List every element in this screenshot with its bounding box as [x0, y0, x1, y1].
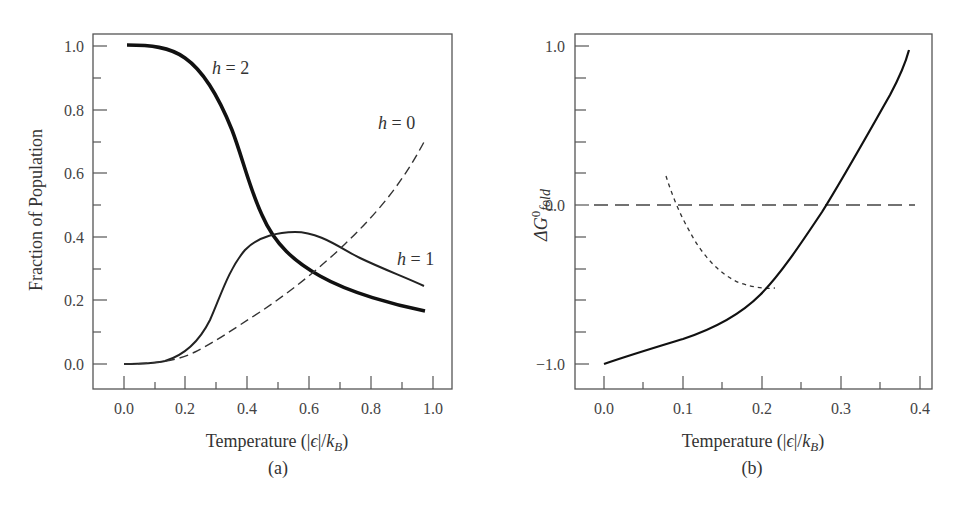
figure: 0.0 0.2 0.4 0.6 0.8 1.0 0.0 0.2 0.4 0.6 …: [0, 0, 961, 506]
x-tick-labels-b: 0.0 0.1 0.2 0.3 0.4: [594, 400, 930, 417]
y-tick-label: 0.6: [64, 165, 84, 182]
curve-h2: [127, 45, 425, 311]
y-tick-label: 0.4: [64, 229, 84, 246]
y-tick-label: 1.0: [545, 38, 565, 55]
x-tick-labels-a: 0.0 0.2 0.4 0.6 0.8 1.0: [114, 400, 443, 417]
annotation-h2: h = 2: [212, 58, 249, 78]
x-axis-label-b: Temperature (|ϵ|/kB): [682, 431, 825, 454]
x-axis-label-a: Temperature (|ϵ|/kB): [206, 431, 349, 454]
x-tick-label: 0.0: [114, 400, 134, 417]
y-axis-label-a: Fraction of Population: [26, 129, 46, 291]
panel-label-a: (a): [268, 458, 288, 479]
annotation-h1: h = 1: [397, 249, 434, 269]
curve-approximation: [666, 176, 775, 288]
panel-label-b: (b): [742, 458, 763, 479]
y-tick-label: 1.0: [64, 38, 84, 55]
x-tick-label: 0.0: [594, 400, 614, 417]
y-tick-labels-a: 0.0 0.2 0.4 0.6 0.8 1.0: [64, 38, 84, 373]
x-tick-label: 0.2: [752, 400, 772, 417]
x-tick-label: 0.2: [175, 400, 195, 417]
annotation-h0: h = 0: [378, 113, 415, 133]
y-ticks-b: [575, 46, 589, 364]
y-ticks-a: [93, 46, 107, 364]
plot-frame-a: [93, 34, 452, 389]
chart-a: 0.0 0.2 0.4 0.6 0.8 1.0 0.0 0.2 0.4 0.6 …: [26, 34, 452, 479]
x-tick-label: 0.8: [361, 400, 381, 417]
x-ticks-b: [604, 376, 920, 389]
curve-dG-fold: [604, 50, 909, 364]
curve-h0: [124, 142, 424, 364]
x-tick-label: 0.4: [910, 400, 930, 417]
plot-frame-b: [575, 34, 932, 389]
x-tick-label: 0.3: [831, 400, 851, 417]
y-tick-label: 0.0: [64, 356, 84, 373]
x-tick-label: 0.1: [673, 400, 693, 417]
y-tick-label: 0.8: [64, 102, 84, 119]
y-tick-label: −1.0: [536, 356, 565, 373]
x-ticks-a: [124, 376, 433, 389]
x-tick-label: 0.6: [299, 400, 319, 417]
y-tick-label: 0.2: [64, 292, 84, 309]
x-tick-label: 0.4: [237, 400, 257, 417]
y-axis-label-b: ΔG0fold: [528, 188, 553, 242]
chart-b: −1.0 0.0 1.0 0.0 0.1 0.2 0.3 0.4 ΔG0fold…: [528, 34, 932, 479]
x-tick-label: 1.0: [423, 400, 443, 417]
